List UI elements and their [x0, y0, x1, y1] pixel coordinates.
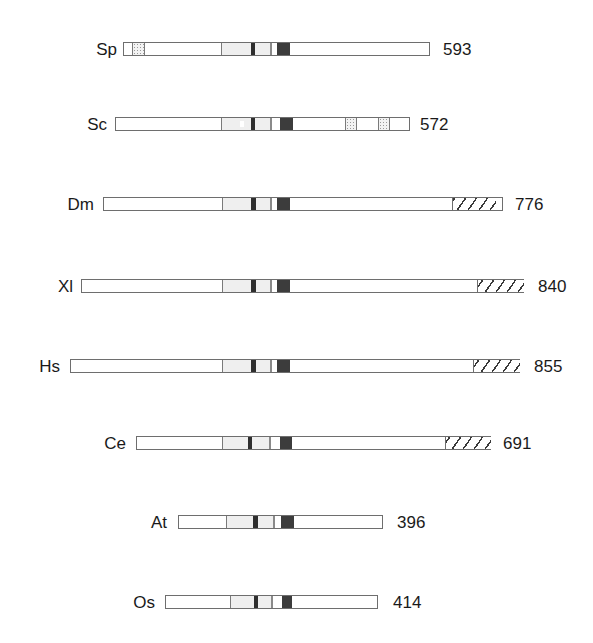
segment-divider: [270, 280, 272, 292]
segment-divider: [271, 596, 273, 608]
motif-block: [277, 360, 290, 372]
motif-block: [281, 516, 294, 528]
species-label: Sp: [96, 40, 117, 60]
motif-bar: [251, 198, 256, 210]
length-label: 855: [534, 357, 562, 377]
c-terminal-extension: [477, 280, 524, 292]
protein-bar: [103, 197, 503, 211]
species-label: Hs: [39, 357, 60, 377]
segment-divider: [270, 360, 272, 372]
length-label: 396: [397, 513, 425, 533]
length-label: 414: [393, 593, 421, 613]
species-row-ce: Ce 691: [0, 434, 593, 454]
segment-divider: [270, 118, 272, 130]
protein-bar: [178, 515, 383, 529]
species-row-dm: Dm 776: [0, 195, 593, 215]
motif-bar: [251, 360, 256, 372]
species-label: Dm: [68, 195, 94, 215]
segment-divider: [270, 198, 272, 210]
length-label: 776: [515, 195, 543, 215]
segment-divider: [273, 516, 275, 528]
motif-block: [277, 280, 290, 292]
length-label: 840: [538, 277, 566, 297]
species-label: At: [151, 513, 167, 533]
motif-bar: [251, 118, 255, 130]
species-label: Sc: [87, 115, 107, 135]
conserved-region: [230, 596, 272, 608]
c-terminal-extension: [452, 198, 496, 210]
motif-bar: [251, 280, 256, 292]
conserved-region: [222, 198, 271, 210]
motif-block: [277, 43, 290, 55]
species-label: Os: [133, 593, 155, 613]
motif-bar: [251, 43, 255, 55]
repeat-region: [345, 118, 357, 130]
c-terminal-extension: [445, 437, 491, 449]
species-row-at: At 396: [0, 513, 593, 533]
conserved-region: [222, 280, 271, 292]
length-label: 572: [420, 115, 448, 135]
species-row-sp: Sp 593: [0, 40, 593, 60]
conserved-region: [221, 43, 271, 55]
protein-bar: [70, 359, 520, 373]
conserved-region: [222, 437, 270, 449]
protein-bar: [81, 279, 524, 293]
c-terminal-extension: [473, 360, 520, 372]
motif-block: [277, 198, 290, 210]
motif-block: [280, 118, 293, 130]
motif-bar: [254, 596, 258, 608]
gap-notch: [240, 121, 244, 127]
protein-bar: [123, 42, 430, 56]
protein-bar: [115, 117, 410, 131]
species-label: Ce: [104, 434, 126, 454]
repeat-region: [378, 118, 390, 130]
length-label: 691: [503, 434, 531, 454]
segment-divider: [270, 43, 272, 55]
length-label: 593: [443, 40, 471, 60]
segment-divider: [269, 437, 271, 449]
repeat-region: [132, 43, 145, 55]
species-label: Xl: [58, 277, 73, 297]
conserved-region: [221, 118, 271, 130]
conserved-region: [222, 360, 271, 372]
species-row-sc: Sc 572: [0, 115, 593, 135]
motif-block: [282, 596, 292, 608]
motif-bar: [253, 516, 258, 528]
motif-bar: [248, 437, 252, 449]
species-row-os: Os 414: [0, 593, 593, 613]
protein-bar: [165, 595, 378, 609]
conserved-region: [226, 516, 274, 528]
motif-block: [280, 437, 292, 449]
protein-bar: [136, 436, 491, 450]
species-row-xl: Xl 840: [0, 277, 593, 297]
species-row-hs: Hs 855: [0, 357, 593, 377]
